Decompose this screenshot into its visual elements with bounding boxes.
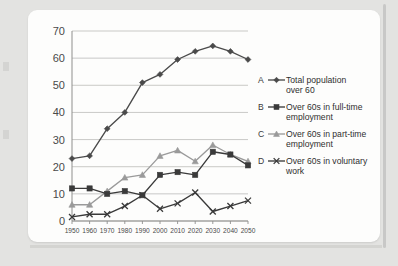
y-axis-tick-label: 10 (53, 188, 65, 200)
y-axis-tick-label: 30 (53, 134, 65, 146)
legend-key-D: D (258, 156, 264, 166)
marker-triangle (210, 142, 216, 148)
marker-diamond (192, 48, 198, 54)
series-line-A (72, 46, 248, 159)
legend-label-line1-C: Over 60s in part-time (286, 129, 366, 139)
legend-label-line1-B: Over 60s in full-time (286, 102, 363, 112)
marker-square (157, 172, 162, 177)
x-axis-tick-label: 2020 (188, 227, 203, 234)
legend-label-line2-B: employment (286, 112, 333, 122)
series-A (69, 43, 251, 161)
line-chart: 0102030405060701950196019701980199020002… (28, 10, 380, 242)
legend-key-A: A (258, 75, 264, 85)
marker-diamond (69, 156, 75, 162)
marker-cross (122, 203, 128, 209)
x-axis-tick-label: 1970 (100, 227, 115, 234)
x-axis-tick-label: 2030 (205, 227, 220, 234)
marker-diamond (245, 57, 251, 63)
marker-diamond (228, 48, 234, 54)
x-axis-tick-label: 2000 (153, 227, 168, 234)
y-axis-tick-label: 0 (59, 215, 65, 227)
marker-square (122, 189, 127, 194)
marker-diamond (140, 80, 146, 86)
legend-label-line1-D: Over 60s in voluntary (286, 156, 368, 166)
legend-item-B[interactable]: BOver 60s in full-timeemployment (258, 102, 363, 122)
legend-item-A[interactable]: ATotal populationover 60 (258, 75, 346, 95)
legend-label-line2-A: over 60 (286, 85, 315, 95)
page-bottom-edge (30, 245, 382, 248)
x-axis-tick-label: 1950 (65, 227, 80, 234)
y-axis-tick-label: 60 (53, 52, 65, 64)
x-axis-tick-label: 2010 (170, 227, 185, 234)
marker-square (228, 152, 233, 157)
marker-square (274, 105, 279, 110)
marker-square (210, 149, 215, 154)
legend-label-line2-D: work (285, 166, 305, 176)
marker-square (193, 172, 198, 177)
legend-item-C[interactable]: COver 60s in part-timeemployment (258, 129, 366, 149)
marker-cross (192, 190, 198, 196)
marker-square (69, 186, 74, 191)
marker-diamond (274, 77, 280, 83)
y-axis-tick-label: 70 (53, 25, 65, 37)
page-right-edge (383, 4, 386, 248)
y-axis-tick-label: 50 (53, 79, 65, 91)
x-axis-tick-label: 1990 (135, 227, 150, 234)
marker-square (175, 170, 180, 175)
page-margin-artifact-top (3, 62, 9, 71)
series-line-D (72, 193, 248, 217)
chart-canvas: 0102030405060701950196019701980199020002… (28, 10, 380, 242)
marker-diamond (210, 43, 216, 49)
legend-key-C: C (258, 129, 264, 139)
page-margin-artifact-bottom (3, 130, 9, 139)
y-axis-tick-label: 40 (53, 106, 65, 118)
legend-label-line2-C: employment (286, 139, 333, 149)
y-axis-tick-label: 20 (53, 161, 65, 173)
x-axis-tick-label: 1980 (117, 227, 132, 234)
marker-square (87, 186, 92, 191)
legend-item-D[interactable]: DOver 60s in voluntarywork (258, 156, 368, 176)
x-axis-tick-label: 1960 (82, 227, 97, 234)
x-axis-tick-label: 2050 (241, 227, 256, 234)
legend-key-B: B (258, 102, 264, 112)
marker-square (245, 163, 250, 168)
marker-triangle (175, 147, 181, 153)
legend-label-line1-A: Total population (286, 75, 346, 85)
marker-square (105, 191, 110, 196)
x-axis-tick-label: 2040 (223, 227, 238, 234)
